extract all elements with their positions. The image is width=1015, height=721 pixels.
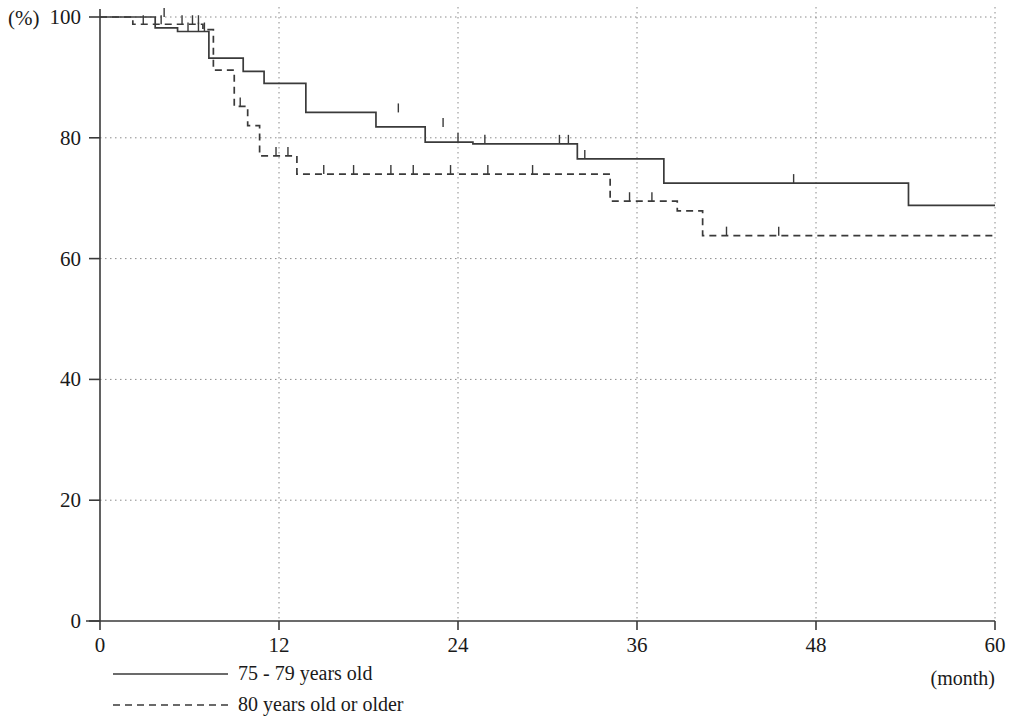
legend-label-1: 75 - 79 years old <box>238 662 372 685</box>
x-tick-label: 24 <box>448 633 470 657</box>
tick-labels: 02040608010001224364860 <box>50 5 1006 657</box>
y-tick-label: 80 <box>60 126 81 150</box>
x-axis-unit-label: (month) <box>931 667 995 690</box>
y-tick-label: 0 <box>71 609 82 633</box>
y-axis-unit-label: (%) <box>8 6 39 30</box>
y-tick-label: 100 <box>50 5 82 29</box>
x-tick-label: 0 <box>95 633 106 657</box>
chart-legend: 75 - 79 years old80 years old or older <box>113 662 404 716</box>
x-tick-label: 36 <box>627 633 648 657</box>
censor-marks <box>143 8 793 236</box>
x-tick-label: 60 <box>985 633 1006 657</box>
y-tick-label: 40 <box>60 367 81 391</box>
survival-chart-page: 02040608010001224364860 (%)(month) 75 - … <box>0 0 1015 721</box>
legend-label-2: 80 years old or older <box>238 693 404 716</box>
y-tick-label: 60 <box>60 247 81 271</box>
axis-unit-labels: (%)(month) <box>8 6 995 690</box>
y-tick-label: 20 <box>60 488 81 512</box>
axis-ticks <box>89 17 995 630</box>
x-tick-label: 48 <box>806 633 827 657</box>
x-tick-label: 12 <box>269 633 290 657</box>
series-curves <box>100 17 995 236</box>
series-curve-2 <box>100 17 995 236</box>
kaplan-meier-chart: 02040608010001224364860 (%)(month) 75 - … <box>0 0 1015 721</box>
series-curve-1 <box>100 17 995 205</box>
axis-lines <box>86 9 995 621</box>
